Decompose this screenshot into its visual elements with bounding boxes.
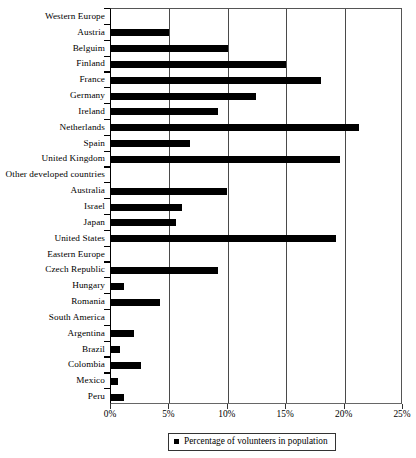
bar: [111, 235, 336, 242]
bar: [111, 330, 134, 337]
bar: [111, 299, 160, 306]
category-label: Australia: [0, 185, 105, 195]
volunteer-percentage-bar-chart: Western EuropeAustriaBelguimFinlandFranc…: [0, 0, 416, 458]
category-label: Colombia: [0, 359, 105, 369]
category-tick: [104, 8, 110, 9]
category-label: Hungary: [0, 280, 105, 290]
gridline: [286, 9, 287, 403]
category-label: Czech Republic: [0, 264, 105, 274]
category-label: United Kingdom: [0, 153, 105, 163]
bar: [111, 219, 176, 226]
category-label: Eastern Europe: [0, 249, 105, 259]
category-label: Argentina: [0, 328, 105, 338]
gridline: [228, 9, 229, 403]
bar: [111, 156, 340, 163]
value-tick-label: 5%: [148, 409, 188, 420]
category-tick: [104, 151, 110, 152]
category-label: France: [0, 74, 105, 84]
category-tick: [104, 166, 110, 167]
category-tick: [104, 372, 110, 373]
category-label: Israel: [0, 201, 105, 211]
value-tick-label: 10%: [207, 409, 247, 420]
bar: [111, 124, 359, 131]
category-label: Western Europe: [0, 11, 105, 21]
category-label: Finland: [0, 58, 105, 68]
category-tick: [104, 277, 110, 278]
value-tick-label: 0%: [90, 409, 130, 420]
bar: [111, 362, 141, 369]
category-label: United States: [0, 233, 105, 243]
category-tick: [104, 135, 110, 136]
bar: [111, 93, 256, 100]
bar: [111, 108, 218, 115]
bar: [111, 77, 321, 84]
category-label: Brazil: [0, 344, 105, 354]
category-tick: [104, 261, 110, 262]
category-label: Netherlands: [0, 122, 105, 132]
category-tick: [104, 341, 110, 342]
legend-label: Percentage of volunteers in population: [184, 436, 328, 447]
category-label: Other developed countries: [0, 169, 105, 179]
category-tick: [104, 56, 110, 57]
category-tick: [104, 356, 110, 357]
category-tick: [104, 40, 110, 41]
category-tick: [104, 309, 110, 310]
category-tick: [104, 388, 110, 389]
bar: [111, 346, 120, 353]
bar: [111, 283, 124, 290]
category-label: Spain: [0, 138, 105, 148]
category-label: Japan: [0, 217, 105, 227]
category-tick: [104, 198, 110, 199]
category-label: Peru: [0, 391, 105, 401]
bar: [111, 61, 286, 68]
category-label: Germany: [0, 90, 105, 100]
category-tick: [104, 103, 110, 104]
category-tick: [104, 246, 110, 247]
category-label: Ireland: [0, 106, 105, 116]
bar: [111, 45, 228, 52]
category-tick: [104, 87, 110, 88]
category-tick: [104, 182, 110, 183]
category-label: Austria: [0, 27, 105, 37]
bar: [111, 394, 124, 401]
category-label: Mexico: [0, 375, 105, 385]
plot-area: [110, 8, 402, 404]
category-tick: [104, 71, 110, 72]
bar: [111, 378, 118, 385]
bar: [111, 140, 190, 147]
value-tick-label: 15%: [265, 409, 305, 420]
value-tick-label: 25%: [382, 409, 416, 420]
legend-swatch-icon: [174, 439, 179, 444]
category-tick: [104, 325, 110, 326]
bar: [111, 204, 182, 211]
category-label: Romania: [0, 296, 105, 306]
category-tick: [104, 293, 110, 294]
bar: [111, 267, 218, 274]
category-tick: [104, 230, 110, 231]
category-label: South America: [0, 312, 105, 322]
bar: [111, 29, 169, 36]
bar: [111, 188, 227, 195]
gridline: [345, 9, 346, 403]
category-tick: [104, 214, 110, 215]
chart-legend: Percentage of volunteers in population: [168, 433, 336, 451]
category-label: Belguim: [0, 43, 105, 53]
category-tick: [104, 119, 110, 120]
category-tick: [104, 24, 110, 25]
value-tick-label: 20%: [324, 409, 364, 420]
